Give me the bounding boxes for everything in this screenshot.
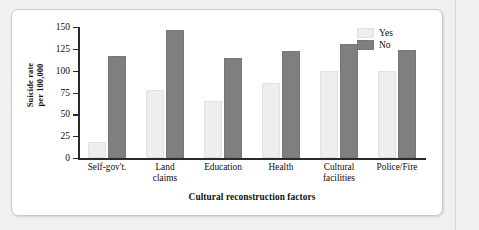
- x-axis-category-label-line: Cultural: [310, 162, 368, 173]
- page-edge-rule: [455, 0, 456, 230]
- bar-yes: [204, 101, 222, 158]
- bar-no: [166, 30, 184, 158]
- x-axis-category-label-line: Health: [252, 162, 310, 173]
- bar-no: [224, 58, 242, 158]
- y-axis-tick-label: 75: [61, 87, 71, 97]
- legend-entry-no: No: [357, 40, 393, 50]
- x-axis-category-label-line: claims: [136, 173, 194, 184]
- y-axis-tick-label: 0: [65, 153, 70, 163]
- bar-yes: [262, 83, 280, 158]
- y-axis-tick-label: 125: [56, 44, 70, 54]
- y-axis-title-line-2: per 100,000: [35, 64, 46, 107]
- bar-no: [340, 44, 358, 158]
- legend: Yes No: [357, 28, 393, 50]
- bar-no: [282, 51, 300, 158]
- x-axis-line: [78, 158, 426, 160]
- x-axis-category-labels: Self-gov't.LandclaimsEducationHealthCult…: [78, 162, 426, 184]
- x-axis-title: Cultural reconstruction factors: [78, 192, 426, 202]
- y-axis-tick-label: 25: [61, 131, 71, 141]
- x-axis-category-label: Culturalfacilities: [310, 162, 368, 184]
- y-axis-title-line-1: Suicide rate: [25, 63, 36, 107]
- plot-area: Suicide rate per 100,000 025507510012515…: [12, 10, 444, 217]
- bar-yes: [146, 90, 164, 158]
- bar-no: [398, 50, 416, 158]
- bar-group: [78, 27, 136, 158]
- y-axis-title: Suicide rate per 100,000: [12, 25, 58, 145]
- x-axis-category-label-line: Land: [136, 162, 194, 173]
- y-axis-tick: 0: [73, 158, 78, 159]
- x-axis-category-label: Self-gov't.: [78, 162, 136, 184]
- bar-group: [252, 27, 310, 158]
- y-axis-tick-label: 50: [61, 109, 71, 119]
- legend-label-no: No: [379, 40, 391, 50]
- x-axis-category-label-line: Self-gov't.: [78, 162, 136, 173]
- bar-yes: [88, 142, 106, 158]
- legend-label-yes: Yes: [379, 28, 393, 38]
- x-axis-category-label: Health: [252, 162, 310, 184]
- legend-entry-yes: Yes: [357, 28, 393, 38]
- legend-swatch-yes-icon: [357, 28, 374, 38]
- x-axis-category-label: Police/Fire: [368, 162, 426, 184]
- figure-root: Suicide rate per 100,000 025507510012515…: [0, 0, 479, 230]
- x-axis-category-label-line: facilities: [310, 173, 368, 184]
- bar-group: [194, 27, 252, 158]
- bar-no: [108, 56, 126, 158]
- bar-yes: [320, 71, 338, 158]
- y-axis-tick-label: 150: [56, 22, 70, 32]
- bar-group: [136, 27, 194, 158]
- x-axis-category-label: Landclaims: [136, 162, 194, 184]
- x-axis-category-label: Education: [194, 162, 252, 184]
- x-axis-category-label-line: Police/Fire: [368, 162, 426, 173]
- y-axis-tick-label: 100: [56, 65, 70, 75]
- bar-yes: [378, 71, 396, 158]
- x-axis-category-label-line: Education: [194, 162, 252, 173]
- chart-panel: Suicide rate per 100,000 025507510012515…: [11, 9, 443, 216]
- legend-swatch-no-icon: [357, 40, 374, 50]
